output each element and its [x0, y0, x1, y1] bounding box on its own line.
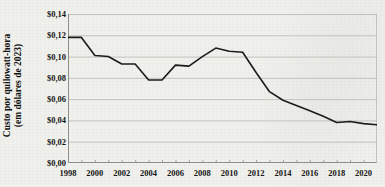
cost-per-kwh-line	[68, 37, 377, 124]
x-tick-label-2018: 2018	[328, 168, 345, 178]
x-tick-label-2016: 2016	[301, 168, 318, 178]
x-tick-label-2006: 2006	[167, 168, 184, 178]
y-tick-label-014: $0,14	[22, 9, 66, 19]
x-tick-label-2004: 2004	[140, 168, 157, 178]
x-tick-label-2010: 2010	[221, 168, 238, 178]
y-tick-label-012: $0,12	[22, 30, 66, 40]
axis-frame	[68, 14, 377, 163]
x-tick-label-1998: 1998	[60, 168, 77, 178]
line-chart-svg	[68, 14, 377, 163]
y-tick-label-002: $0,02	[22, 137, 66, 147]
x-tick-label-2002: 2002	[113, 168, 130, 178]
y-axis-tick-labels: $0,00$0,02$0,04$0,06$0,08$0,10$0,12$0,14	[20, 0, 66, 187]
horizontal-gridlines	[68, 15, 377, 164]
y-axis-title-line-1: Custo por quilowatt-hora	[3, 33, 13, 136]
x-tick-label-2012: 2012	[248, 168, 265, 178]
y-tick-label-008: $0,08	[22, 73, 66, 83]
x-tick-label-2020: 2020	[355, 168, 372, 178]
chart-figure: Custo por quilowatt-hora (em dólares de …	[0, 0, 385, 187]
plot-background	[68, 14, 377, 163]
x-tick-label-2014: 2014	[274, 168, 291, 178]
x-tick-label-2008: 2008	[194, 168, 211, 178]
x-tick-label-2000: 2000	[86, 168, 103, 178]
y-tick-label-010: $0,10	[22, 52, 66, 62]
y-tick-label-006: $0,06	[22, 94, 66, 104]
y-tick-label-000: $0,00	[22, 158, 66, 168]
x-axis-tick-labels: 1998200020022004200620082010201220142016…	[0, 168, 385, 186]
y-tick-label-004: $0,04	[22, 115, 66, 125]
plot-area	[68, 14, 377, 163]
